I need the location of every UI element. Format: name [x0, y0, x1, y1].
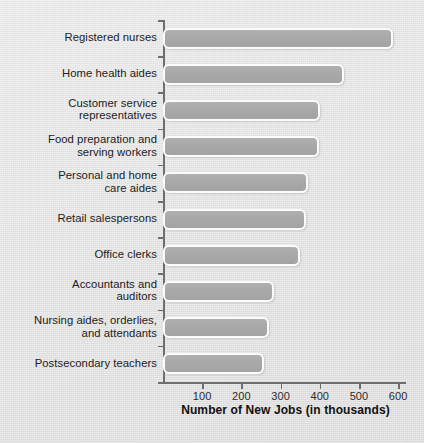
x-tick [359, 383, 361, 389]
bar [163, 209, 306, 230]
x-tick [241, 383, 243, 389]
y-tick [158, 165, 164, 167]
x-tick [320, 383, 322, 389]
category-label-line: auditors [5, 290, 157, 303]
y-tick [158, 129, 164, 131]
category-label: Office clerks [5, 248, 157, 261]
category-label-line: representatives [5, 109, 157, 122]
category-label: Retail salespersons [5, 212, 157, 225]
x-tick [202, 383, 204, 389]
category-label-line: Personal and home [5, 169, 157, 182]
category-label-line: Accountants and [5, 278, 157, 291]
bar [163, 172, 308, 193]
bar [163, 317, 269, 338]
x-tick [281, 383, 283, 389]
x-tick-label: 600 [378, 390, 418, 402]
y-tick [158, 56, 164, 58]
bar [163, 100, 320, 121]
bar [163, 353, 264, 374]
category-label: Food preparation andserving workers [5, 133, 157, 158]
category-label-line: Customer service [5, 97, 157, 110]
y-tick [158, 273, 164, 275]
bar [163, 245, 300, 266]
x-tick-label: 300 [261, 390, 301, 402]
x-tick-label: 400 [300, 390, 340, 402]
x-tick-label: 500 [339, 390, 379, 402]
category-label-line: Home health aides [5, 67, 157, 80]
y-tick [158, 201, 164, 203]
category-label: Registered nurses [5, 31, 157, 44]
category-label: Home health aides [5, 67, 157, 80]
bar [163, 64, 344, 85]
category-label-line: and attendants [5, 327, 157, 340]
category-label: Customer servicerepresentatives [5, 97, 157, 122]
category-label-line: care aides [5, 182, 157, 195]
category-label-line: serving workers [5, 146, 157, 159]
y-tick [158, 92, 164, 94]
x-tick-label: 100 [182, 390, 222, 402]
category-label: Accountants andauditors [5, 278, 157, 303]
category-label-line: Nursing aides, orderlies, [5, 314, 157, 327]
category-label-line: Retail salespersons [5, 212, 157, 225]
bar [163, 136, 319, 157]
category-label-line: Postsecondary teachers [5, 357, 157, 370]
x-tick [398, 383, 400, 389]
x-axis-line [163, 382, 406, 384]
category-label: Postsecondary teachers [5, 357, 157, 370]
y-tick [158, 346, 164, 348]
x-tick-label: 200 [221, 390, 261, 402]
y-tick [158, 382, 164, 384]
bar [163, 281, 274, 302]
category-label: Personal and homecare aides [5, 169, 157, 194]
category-label-line: Office clerks [5, 248, 157, 261]
category-label: Nursing aides, orderlies,and attendants [5, 314, 157, 339]
y-tick [158, 237, 164, 239]
bar-chart: 100200300400500600 Registered nursesHome… [0, 0, 424, 443]
category-label-line: Registered nurses [5, 31, 157, 44]
bar [163, 28, 393, 49]
y-tick [158, 310, 164, 312]
x-axis-title: Number of New Jobs (in thousands) [163, 403, 408, 417]
y-tick [158, 20, 164, 22]
category-label-line: Food preparation and [5, 133, 157, 146]
